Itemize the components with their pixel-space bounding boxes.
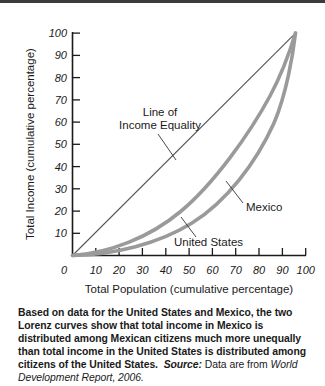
- caption-source-text: Data are from: [205, 359, 268, 370]
- x-tick-label-20: 20: [112, 264, 126, 276]
- x-tick-label-70: 70: [230, 264, 243, 276]
- y-tick-label-30: 30: [55, 183, 68, 195]
- x-tick-label-30: 30: [136, 264, 149, 276]
- y-tick-label-10: 10: [55, 227, 68, 239]
- y-axis-title: Total Income (cumulative percentage): [24, 48, 36, 240]
- annotation-income-equality-line2: Income Equality: [119, 119, 201, 131]
- figure-container: 100 90 80 70 60 50 40 30 20 10 0 10 20 3…: [0, 0, 325, 386]
- y-tick-label-20: 20: [54, 205, 68, 217]
- y-tick-label-90: 90: [55, 49, 68, 61]
- x-tick-label-10: 10: [90, 264, 103, 276]
- x-tick-label-100: 100: [297, 264, 316, 276]
- x-tick-label-80: 80: [253, 264, 266, 276]
- figure-caption: Based on data for the United States and …: [18, 306, 312, 385]
- chart-svg: 100 90 80 70 60 50 40 30 20 10 0 10 20 3…: [0, 3, 325, 300]
- x-tick-label-50: 50: [183, 264, 196, 276]
- x-tick-label-90: 90: [276, 264, 289, 276]
- y-tick-label-80: 80: [55, 72, 68, 84]
- x-tick-label-40: 40: [160, 264, 173, 276]
- x-tick-label-60: 60: [206, 264, 219, 276]
- y-tick-label-50: 50: [55, 138, 68, 150]
- y-tick-label-0: 0: [61, 264, 68, 276]
- annotation-united-states-label: United States: [174, 236, 243, 248]
- annotation-mexico-label: Mexico: [246, 201, 282, 213]
- caption-source-label: Source:: [164, 359, 202, 370]
- y-tick-label-100: 100: [49, 27, 68, 39]
- y-tick-label-40: 40: [55, 161, 68, 173]
- y-tick-label-60: 60: [55, 116, 68, 128]
- lorenz-curve-chart: 100 90 80 70 60 50 40 30 20 10 0 10 20 3…: [0, 3, 325, 300]
- y-tick-label-70: 70: [55, 94, 68, 106]
- annotation-income-equality-line1: Line of: [143, 106, 178, 118]
- x-axis-title: Total Population (cumulative percentage): [85, 283, 294, 295]
